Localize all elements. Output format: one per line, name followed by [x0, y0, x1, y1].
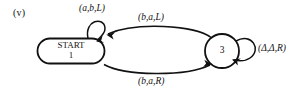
- arc-3-to-1-label: (b,a,L): [138, 13, 164, 23]
- arc-1-to-3-path: [104, 65, 210, 74]
- self-loop-state1-label: (a,b,L): [79, 4, 105, 14]
- arc-3-to-1-path: [108, 26, 211, 37]
- self-loop-state3-label: (Δ,Δ,R): [258, 44, 286, 54]
- arc-1-to-3-label: (b,a,R): [138, 77, 164, 87]
- start-state-label-line2: 1: [37, 51, 105, 61]
- start-state-label: START 1: [37, 41, 105, 60]
- part-enumerator-label: (v): [13, 8, 25, 18]
- state-diagram-figure: (v) START 1 3 (a,b,L) (b,a,L) (b,a,R) (Δ…: [0, 0, 304, 91]
- state-3-label: 3: [205, 46, 239, 56]
